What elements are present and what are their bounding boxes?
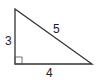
right-triangle-diagram: 3 5 4 [0,0,98,80]
triangle-outline [15,9,92,64]
right-angle-marker [15,57,22,64]
side-label-hypotenuse: 5 [53,22,60,36]
side-label-horizontal: 4 [46,66,53,80]
side-label-vertical: 3 [5,34,12,48]
